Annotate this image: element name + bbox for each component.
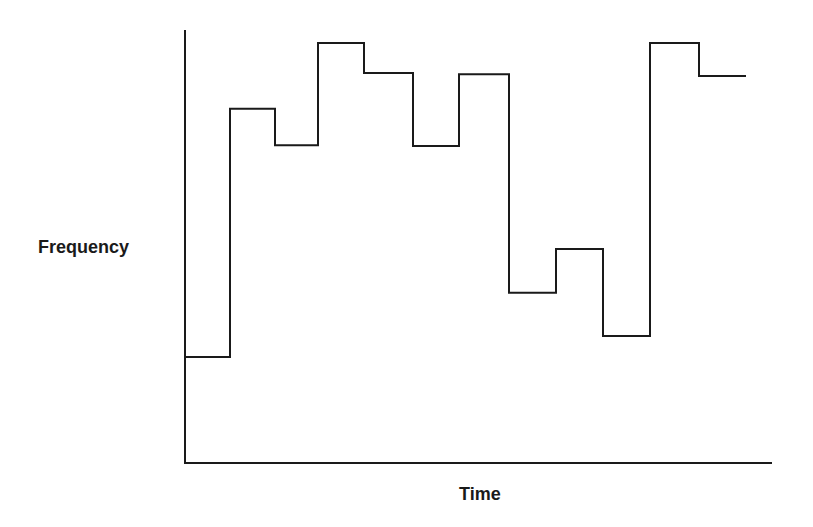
x-axis-label: Time (459, 484, 501, 505)
step-chart (0, 0, 813, 527)
frequency-step-line (185, 43, 746, 357)
y-axis-label: Frequency (38, 237, 129, 258)
